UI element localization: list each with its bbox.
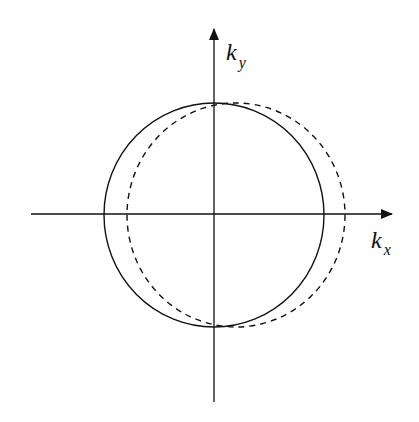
dashed-circle	[127, 103, 345, 327]
k-space-diagram: ky kx	[0, 0, 419, 422]
kx-label: kx	[371, 227, 391, 258]
ky-label: ky	[226, 39, 247, 72]
